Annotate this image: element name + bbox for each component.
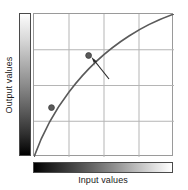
upper-control-point[interactable] (86, 53, 92, 59)
output-gradient-ramp (19, 13, 31, 156)
curve-canvas (34, 14, 174, 157)
gamma-curve-figure: Output values Input values (0, 0, 188, 190)
input-gradient-ramp (33, 162, 173, 173)
plot-area[interactable] (33, 13, 173, 156)
x-axis-label: Input values (33, 175, 173, 185)
arrow-cursor-icon (92, 57, 110, 79)
gridlines (34, 14, 174, 157)
lower-control-point[interactable] (49, 105, 55, 111)
y-axis-label: Output values (4, 48, 14, 122)
